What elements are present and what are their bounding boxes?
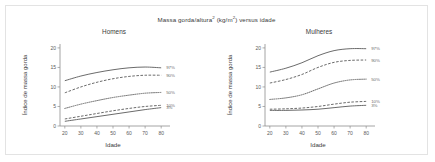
x-tick-label-1-40: 40 [299, 130, 305, 136]
y-tick-label-0-0: 0 [53, 123, 56, 129]
curve-label-0-3%: 3% [166, 105, 172, 110]
figure-container: Massa gorda/altura2 (kg/m2) versus idade… [5, 5, 428, 155]
x-tick-label-1-70: 70 [347, 130, 353, 136]
y-axis-label-0: Índice de massa gorda [22, 54, 28, 115]
chart-title-part3: ) versus idade [235, 16, 275, 23]
x-tick-label-0-80: 80 [158, 130, 164, 136]
curve-1-50% [270, 79, 366, 99]
x-tick-label-1-60: 60 [331, 130, 337, 136]
panel-title-homens: Homens [14, 28, 214, 35]
x-tick-label-1-30: 30 [283, 130, 289, 136]
curve-0-3% [65, 108, 161, 122]
y-tick-label-1-10: 10 [255, 84, 261, 90]
x-tick-label-1-50: 50 [315, 130, 321, 136]
panel-homens: Homens 0510152020304050607080IdadeÍndice… [14, 28, 214, 152]
curve-label-1-97%: 97% [371, 46, 380, 51]
panel-mulheres: Mulheres 0510152020304050607080IdadeÍndi… [219, 28, 419, 152]
x-tick-label-0-40: 40 [94, 130, 100, 136]
curve-0-90% [65, 75, 161, 93]
x-tick-label-0-30: 30 [78, 130, 84, 136]
curve-label-1-3%: 3% [371, 103, 377, 108]
y-tick-label-1-15: 15 [255, 64, 261, 70]
x-tick-label-0-20: 20 [62, 130, 68, 136]
y-tick-label-0-10: 10 [50, 84, 56, 90]
x-tick-label-0-70: 70 [142, 130, 148, 136]
y-tick-label-0-20: 20 [50, 45, 56, 51]
curve-label-1-50%: 50% [371, 77, 380, 82]
y-tick-label-0-15: 15 [50, 64, 56, 70]
curve-1-10% [270, 101, 366, 109]
plot-homens: 0510152020304050607080IdadeÍndice de mas… [14, 38, 214, 152]
chart-title: Massa gorda/altura2 (kg/m2) versus idade [6, 15, 427, 23]
panel-title-mulheres: Mulheres [219, 28, 419, 35]
chart-title-part1: Massa gorda/altura [158, 16, 213, 23]
plot-mulheres: 0510152020304050607080IdadeÍndice de mas… [219, 38, 419, 152]
y-axis-label-1: Índice de massa gorda [227, 54, 233, 115]
y-tick-label-1-5: 5 [258, 103, 261, 109]
x-tick-label-1-80: 80 [363, 130, 369, 136]
x-axis-label-0: Idade [105, 141, 121, 148]
chart-title-part2: (kg/m [215, 16, 233, 23]
y-tick-label-1-20: 20 [255, 45, 261, 51]
y-tick-label-0-5: 5 [53, 103, 56, 109]
curve-1-3% [270, 105, 366, 110]
curve-0-10% [65, 105, 161, 119]
x-tick-label-0-50: 50 [110, 130, 116, 136]
x-tick-label-1-20: 20 [267, 130, 273, 136]
curve-label-1-90%: 90% [371, 58, 380, 63]
x-axis-label-1: Idade [310, 141, 326, 148]
curve-label-0-97%: 97% [166, 65, 175, 70]
x-tick-label-0-60: 60 [126, 130, 132, 136]
curve-1-97% [270, 49, 366, 73]
y-tick-label-1-0: 0 [258, 123, 261, 129]
curve-label-0-50%: 50% [166, 90, 175, 95]
curve-label-0-90%: 90% [166, 73, 175, 78]
